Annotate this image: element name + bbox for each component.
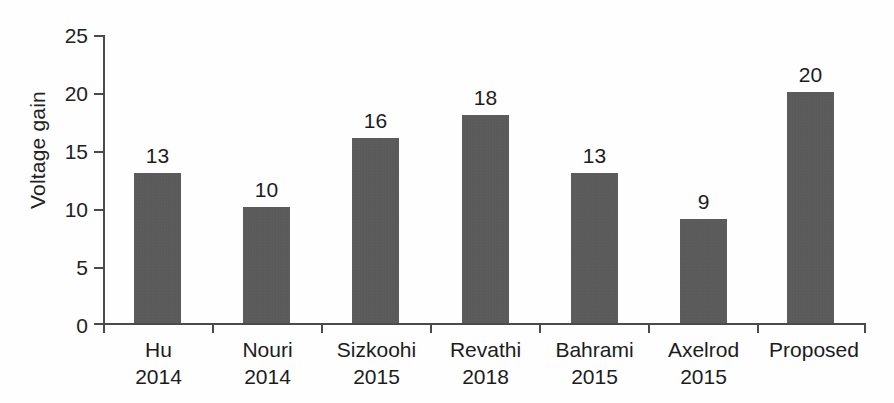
y-tick-mark-20 bbox=[94, 93, 103, 95]
x-category-name: Nouri bbox=[213, 336, 322, 363]
y-tick-label-15: 15 bbox=[48, 141, 88, 162]
bar-value-hu-2014: 13 bbox=[124, 145, 191, 166]
x-category-hu-2014: Hu 2014 bbox=[104, 336, 213, 390]
bar-hu-2014[interactable] bbox=[134, 173, 181, 323]
bar-nouri-2014[interactable] bbox=[243, 207, 290, 323]
y-tick-label-20: 20 bbox=[48, 83, 88, 104]
x-category-bahrami-2015: Bahrami 2015 bbox=[540, 336, 649, 390]
x-tick-mark-3 bbox=[430, 324, 432, 333]
x-category-name: Sizkoohi bbox=[322, 336, 431, 363]
bar-bahrami-2015[interactable] bbox=[571, 173, 618, 323]
x-tick-mark-0 bbox=[103, 324, 105, 333]
plot-area: 13 10 16 18 13 9 20 bbox=[103, 35, 866, 324]
bar-value-axelrod-2015: 9 bbox=[670, 191, 737, 212]
x-category-year: 2018 bbox=[431, 363, 540, 390]
bar-value-sizkoohi-2015: 16 bbox=[342, 110, 409, 131]
x-tick-mark-7 bbox=[864, 324, 866, 333]
bar-value-proposed: 20 bbox=[777, 64, 844, 85]
x-tick-mark-5 bbox=[648, 324, 650, 333]
y-tick-label-25: 25 bbox=[48, 25, 88, 46]
x-tick-mark-4 bbox=[539, 324, 541, 333]
bar-axelrod-2015[interactable] bbox=[680, 219, 727, 323]
x-category-name: Proposed bbox=[757, 336, 871, 363]
y-tick-label-0: 0 bbox=[48, 315, 88, 336]
x-tick-mark-6 bbox=[757, 324, 759, 333]
y-tick-mark-0 bbox=[94, 323, 103, 325]
y-tick-label-10: 10 bbox=[48, 199, 88, 220]
x-category-proposed: Proposed bbox=[757, 336, 871, 363]
x-category-year: 2015 bbox=[649, 363, 758, 390]
x-category-year: 2014 bbox=[213, 363, 322, 390]
bar-chart-figure: Voltage gain 25 20 15 10 5 0 bbox=[0, 0, 894, 403]
y-tick-mark-15 bbox=[94, 151, 103, 153]
bar-value-bahrami-2015: 13 bbox=[561, 145, 628, 166]
x-category-year: 2014 bbox=[104, 363, 213, 390]
x-tick-mark-1 bbox=[212, 324, 214, 333]
x-tick-mark-2 bbox=[321, 324, 323, 333]
x-category-revathi-2018: Revathi 2018 bbox=[431, 336, 540, 390]
bar-revathi-2018[interactable] bbox=[462, 115, 509, 323]
bar-proposed[interactable] bbox=[787, 92, 834, 323]
x-category-name: Revathi bbox=[431, 336, 540, 363]
y-tick-mark-10 bbox=[94, 209, 103, 211]
x-axis-line bbox=[103, 323, 866, 325]
bar-sizkoohi-2015[interactable] bbox=[352, 138, 399, 323]
x-category-nouri-2014: Nouri 2014 bbox=[213, 336, 322, 390]
y-tick-label-5: 5 bbox=[48, 257, 88, 278]
y-axis-tick-labels: 25 20 15 10 5 0 bbox=[48, 35, 88, 325]
y-tick-mark-25 bbox=[94, 35, 103, 37]
x-category-year: 2015 bbox=[540, 363, 649, 390]
bar-value-nouri-2014: 10 bbox=[233, 179, 300, 200]
x-category-sizkoohi-2015: Sizkoohi 2015 bbox=[322, 336, 431, 390]
y-axis-line bbox=[103, 35, 105, 325]
x-category-name: Axelrod bbox=[649, 336, 758, 363]
y-tick-mark-5 bbox=[94, 267, 103, 269]
x-category-name: Hu bbox=[104, 336, 213, 363]
x-category-axelrod-2015: Axelrod 2015 bbox=[649, 336, 758, 390]
x-category-year: 2015 bbox=[322, 363, 431, 390]
x-category-name: Bahrami bbox=[540, 336, 649, 363]
bar-value-revathi-2018: 18 bbox=[452, 87, 519, 108]
